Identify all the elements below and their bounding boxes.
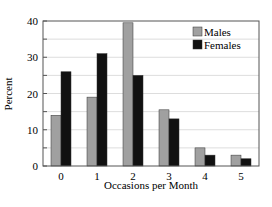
bar-females — [133, 75, 143, 166]
legend: MalesFemales — [193, 26, 241, 51]
y-tick-label: 10 — [27, 124, 39, 136]
bar-females — [169, 119, 179, 166]
legend-swatch-males — [193, 27, 202, 36]
legend-label-females: Females — [204, 39, 241, 51]
bar-females — [241, 159, 251, 166]
y-tick-label: 30 — [27, 51, 39, 63]
bar-males — [231, 155, 241, 166]
legend-swatch-females — [193, 40, 202, 49]
y-tick-label: 0 — [33, 160, 39, 172]
bar-females — [205, 155, 215, 166]
bar-females — [97, 54, 107, 166]
bar-chart: 010203040 012345 Occasions per Month Per… — [0, 0, 272, 207]
x-tick-label: 0 — [58, 170, 64, 182]
x-axis-label: Occasions per Month — [104, 179, 199, 191]
bar-males — [159, 110, 169, 166]
y-tick-label: 20 — [27, 88, 39, 100]
x-tick-label: 4 — [202, 170, 208, 182]
bar-males — [51, 115, 61, 166]
legend-label-males: Males — [204, 26, 231, 38]
y-axis: 010203040 — [27, 15, 47, 172]
bar-males — [195, 148, 205, 166]
bar-females — [61, 72, 71, 166]
x-tick-label: 1 — [94, 170, 100, 182]
x-tick-label: 5 — [238, 170, 244, 182]
y-axis-label: Percent — [2, 78, 14, 111]
bar-males — [87, 97, 97, 166]
gridlines — [43, 39, 259, 148]
y-tick-label: 40 — [27, 15, 39, 27]
bar-males — [123, 23, 133, 166]
